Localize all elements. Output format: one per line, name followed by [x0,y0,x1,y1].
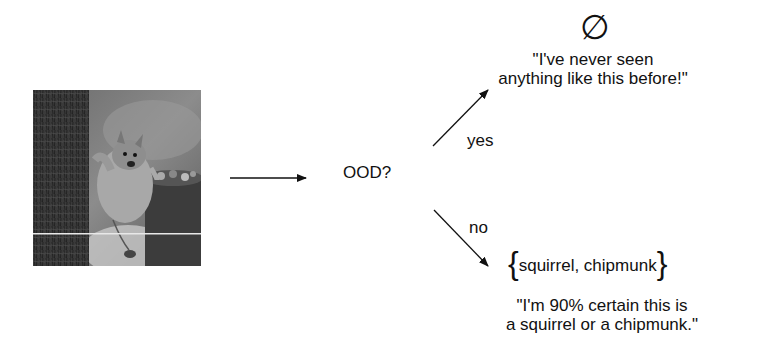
prediction-set: {squirrel, chipmunk} [508,251,667,278]
prediction-quote: "I'm 90% certain this is a squirrel or a… [484,296,720,334]
ood-quote-line2: anything like this before!" [462,69,724,88]
branch-label-no: no [469,218,488,238]
ood-quote-line1: "I've never seen [462,50,724,69]
prediction-quote-line1: "I'm 90% certain this is [484,296,720,315]
prediction-quote-line2: a squirrel or a chipmunk." [484,315,720,334]
close-brace-icon: } [657,245,668,281]
open-brace-icon: { [508,245,519,281]
prediction-set-contents: squirrel, chipmunk [519,256,657,275]
branch-label-yes: yes [467,131,493,151]
empty-set-icon: ∅ [565,8,625,46]
ood-quote: "I've never seen anything like this befo… [462,50,724,88]
ood-question: OOD? [343,163,391,183]
